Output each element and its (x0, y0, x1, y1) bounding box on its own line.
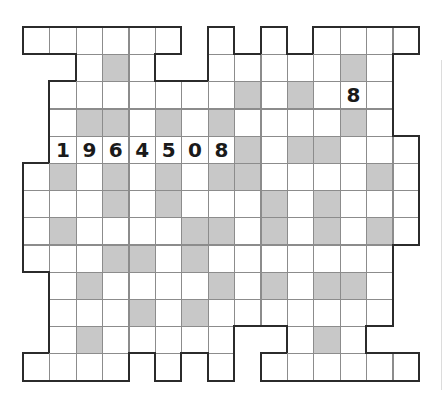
empty-cell[interactable] (155, 272, 182, 300)
empty-cell[interactable] (181, 163, 208, 191)
filled-cell[interactable]: 4 (129, 136, 156, 164)
empty-cell[interactable] (76, 217, 103, 245)
empty-cell[interactable] (340, 245, 367, 273)
empty-cell[interactable] (49, 326, 76, 354)
empty-cell[interactable] (208, 299, 235, 327)
empty-cell[interactable] (76, 245, 103, 273)
empty-cell[interactable] (313, 353, 340, 381)
empty-cell[interactable] (155, 245, 182, 273)
empty-cell[interactable] (208, 353, 235, 381)
empty-cell[interactable] (129, 27, 156, 55)
empty-cell[interactable] (366, 81, 393, 109)
empty-cell[interactable] (393, 217, 420, 245)
empty-cell[interactable] (313, 245, 340, 273)
empty-cell[interactable] (313, 27, 340, 55)
empty-cell[interactable] (287, 353, 314, 381)
empty-cell[interactable] (102, 272, 129, 300)
empty-cell[interactable] (76, 299, 103, 327)
empty-cell[interactable] (393, 136, 420, 164)
empty-cell[interactable] (23, 217, 50, 245)
empty-cell[interactable] (234, 245, 261, 273)
empty-cell[interactable] (366, 245, 393, 273)
empty-cell[interactable] (102, 27, 129, 55)
empty-cell[interactable] (366, 299, 393, 327)
filled-cell[interactable]: 9 (76, 136, 103, 164)
empty-cell[interactable] (208, 81, 235, 109)
empty-cell[interactable] (366, 109, 393, 137)
empty-cell[interactable] (76, 190, 103, 218)
empty-cell[interactable] (181, 272, 208, 300)
empty-cell[interactable] (129, 190, 156, 218)
empty-cell[interactable] (261, 163, 288, 191)
empty-cell[interactable] (261, 353, 288, 381)
empty-cell[interactable] (155, 353, 182, 381)
empty-cell[interactable] (49, 190, 76, 218)
empty-cell[interactable] (313, 54, 340, 82)
empty-cell[interactable] (287, 326, 314, 354)
empty-cell[interactable] (261, 245, 288, 273)
empty-cell[interactable] (340, 163, 367, 191)
filled-cell[interactable]: 6 (102, 136, 129, 164)
empty-cell[interactable] (287, 217, 314, 245)
empty-cell[interactable] (208, 245, 235, 273)
empty-cell[interactable] (49, 272, 76, 300)
empty-cell[interactable] (23, 245, 50, 273)
empty-cell[interactable] (102, 81, 129, 109)
empty-cell[interactable] (181, 81, 208, 109)
filled-cell[interactable]: 0 (181, 136, 208, 164)
filled-cell[interactable]: 8 (340, 81, 367, 109)
empty-cell[interactable] (76, 163, 103, 191)
empty-cell[interactable] (261, 136, 288, 164)
empty-cell[interactable] (234, 217, 261, 245)
empty-cell[interactable] (340, 190, 367, 218)
empty-cell[interactable] (181, 326, 208, 354)
empty-cell[interactable] (261, 27, 288, 55)
empty-cell[interactable] (234, 54, 261, 82)
empty-cell[interactable] (366, 27, 393, 55)
empty-cell[interactable] (49, 353, 76, 381)
empty-cell[interactable] (261, 109, 288, 137)
empty-cell[interactable] (340, 136, 367, 164)
empty-cell[interactable] (49, 109, 76, 137)
empty-cell[interactable] (129, 272, 156, 300)
empty-cell[interactable] (76, 27, 103, 55)
empty-cell[interactable] (340, 27, 367, 55)
empty-cell[interactable] (287, 299, 314, 327)
empty-cell[interactable] (102, 353, 129, 381)
empty-cell[interactable] (102, 217, 129, 245)
empty-cell[interactable] (129, 109, 156, 137)
empty-cell[interactable] (313, 109, 340, 137)
empty-cell[interactable] (181, 109, 208, 137)
empty-cell[interactable] (208, 190, 235, 218)
empty-cell[interactable] (181, 190, 208, 218)
empty-cell[interactable] (393, 27, 420, 55)
empty-cell[interactable] (155, 326, 182, 354)
empty-cell[interactable] (366, 353, 393, 381)
filled-cell[interactable]: 5 (155, 136, 182, 164)
empty-cell[interactable] (76, 81, 103, 109)
filled-cell[interactable]: 1 (49, 136, 76, 164)
empty-cell[interactable] (76, 353, 103, 381)
empty-cell[interactable] (23, 163, 50, 191)
empty-cell[interactable] (76, 54, 103, 82)
empty-cell[interactable] (49, 299, 76, 327)
empty-cell[interactable] (49, 81, 76, 109)
empty-cell[interactable] (261, 54, 288, 82)
empty-cell[interactable] (208, 54, 235, 82)
empty-cell[interactable] (340, 217, 367, 245)
empty-cell[interactable] (23, 353, 50, 381)
empty-cell[interactable] (129, 81, 156, 109)
empty-cell[interactable] (340, 299, 367, 327)
empty-cell[interactable] (234, 272, 261, 300)
empty-cell[interactable] (234, 190, 261, 218)
empty-cell[interactable] (155, 81, 182, 109)
empty-cell[interactable] (102, 299, 129, 327)
empty-cell[interactable] (208, 27, 235, 55)
empty-cell[interactable] (393, 190, 420, 218)
empty-cell[interactable] (287, 272, 314, 300)
empty-cell[interactable] (313, 299, 340, 327)
empty-cell[interactable] (366, 190, 393, 218)
empty-cell[interactable] (340, 326, 367, 354)
empty-cell[interactable] (129, 217, 156, 245)
empty-cell[interactable] (155, 299, 182, 327)
